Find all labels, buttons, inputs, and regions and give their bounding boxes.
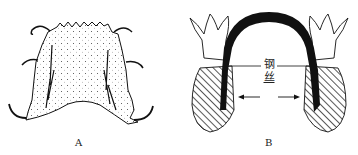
- panel-a: A: [0, 0, 180, 155]
- expansion-arrow-right: [278, 95, 300, 100]
- panel-a-caption: A: [75, 137, 82, 148]
- expansion-arrow-left: [238, 95, 260, 100]
- palatal-plate-illustration: [0, 0, 180, 155]
- steel-wire-label-char2: 丝: [262, 71, 276, 84]
- left-tooth-crown: [190, 14, 229, 60]
- steel-wire-label-char1: 钢: [262, 58, 276, 71]
- right-tooth-crown: [309, 14, 348, 60]
- right-root: [304, 66, 346, 132]
- panel-b: 钢 丝 B: [180, 0, 358, 155]
- panel-b-caption: B: [265, 137, 272, 148]
